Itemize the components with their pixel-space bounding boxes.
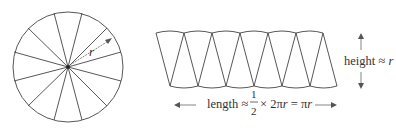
length-label: length ≈: [207, 97, 248, 111]
center-dot: [66, 65, 70, 69]
radius-label: r: [89, 44, 95, 59]
length-formula: × 2πr = πr: [260, 97, 312, 111]
fraction-numerator: 1: [251, 88, 257, 100]
rearranged-sectors: [156, 31, 337, 88]
height-label: height ≈ r: [344, 54, 393, 68]
fraction-denominator: 2: [251, 105, 257, 117]
circle-area-diagram: r height ≈ r length ≈ 1 2 × 2πr = πr: [0, 0, 396, 131]
